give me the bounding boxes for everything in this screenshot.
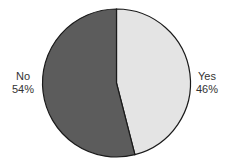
label-yes-pct: 46% — [192, 83, 222, 96]
label-no-pct: 54% — [8, 83, 38, 96]
label-no-name: No — [8, 70, 38, 83]
label-yes: Yes 46% — [192, 70, 222, 96]
label-yes-name: Yes — [192, 70, 222, 83]
label-no: No 54% — [8, 70, 38, 96]
